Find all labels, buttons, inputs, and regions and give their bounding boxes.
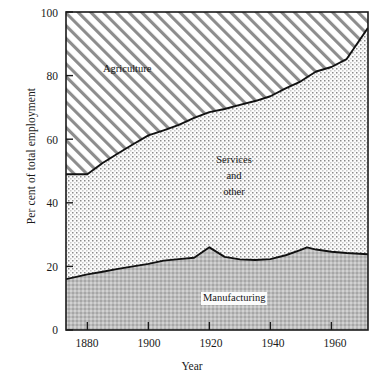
annotation-services-line1: Services xyxy=(205,154,263,167)
annotation-services-line2: and xyxy=(205,170,263,183)
annotation-services-line3: other xyxy=(205,186,263,199)
annotation-manufacturing: Manufacturing xyxy=(201,292,267,305)
plot-area xyxy=(0,0,384,383)
annotation-agriculture: Agriculture xyxy=(103,63,151,76)
employment-share-chart: Per cent of total employment Year 100 80… xyxy=(0,0,384,383)
